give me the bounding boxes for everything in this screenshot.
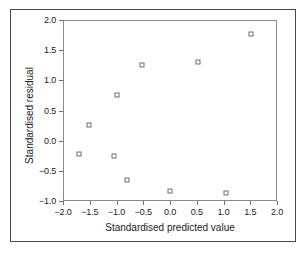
y-axis-tick-label: 2.0: [27, 15, 56, 25]
y-axis-tick: [59, 20, 63, 21]
y-axis-tick: [59, 80, 63, 81]
x-axis-tick-label: −2.0: [55, 207, 72, 217]
x-axis-tick: [90, 201, 91, 205]
y-axis-tick: [59, 171, 63, 172]
x-axis-tick: [63, 201, 64, 205]
data-point: [112, 154, 117, 159]
x-axis-tick-label: 2.0: [271, 207, 283, 217]
x-axis-tick: [250, 201, 251, 205]
x-axis-tick-label: 0.0: [164, 207, 176, 217]
y-axis-tick: [59, 50, 63, 51]
y-axis-tick: [59, 111, 63, 112]
data-point: [77, 151, 82, 156]
x-axis-tick: [117, 201, 118, 205]
data-point: [195, 60, 200, 65]
y-axis-tick: [59, 201, 63, 202]
scatter-plot-figure: −2.0−1.5−1.0−0.50.00.51.01.52.0 −1.0−0.5…: [0, 0, 307, 254]
x-axis-tick: [277, 201, 278, 205]
x-axis-tick: [170, 201, 171, 205]
y-axis-label: Standardised residual: [24, 25, 35, 206]
x-axis-tick: [197, 201, 198, 205]
x-axis-tick-label: −0.5: [135, 207, 152, 217]
data-point: [223, 191, 228, 196]
data-point: [86, 122, 91, 127]
x-axis-tick-label: 1.5: [244, 207, 256, 217]
x-axis-tick-label: 0.5: [191, 207, 203, 217]
x-axis-tick-label: −1.5: [81, 207, 98, 217]
x-axis-tick-label: −1.0: [108, 207, 125, 217]
y-axis-tick: [59, 141, 63, 142]
data-point: [125, 178, 130, 183]
x-axis-tick: [224, 201, 225, 205]
data-point: [249, 31, 254, 36]
plot-area: [63, 20, 277, 201]
data-point: [168, 189, 173, 194]
x-axis-tick-label: 1.0: [218, 207, 230, 217]
x-axis-label: Standardised predicted value: [63, 222, 277, 233]
data-point: [114, 92, 119, 97]
x-axis-tick: [143, 201, 144, 205]
data-point: [140, 62, 145, 67]
